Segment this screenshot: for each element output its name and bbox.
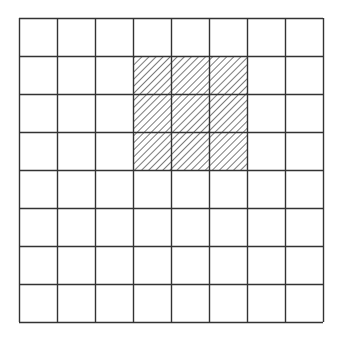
shaded-region bbox=[133, 56, 247, 170]
hatched-cells bbox=[133, 56, 247, 170]
grid-lines bbox=[19, 18, 324, 323]
grid-diagram bbox=[0, 0, 339, 338]
